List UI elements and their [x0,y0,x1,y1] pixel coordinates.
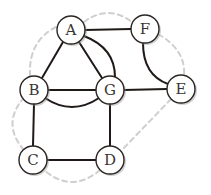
cycle-segment-d-c [44,170,100,182]
node-d: D [96,146,126,176]
edge-a-f [85,29,131,30]
node-f-label: F [140,20,150,38]
edge-b-g-curved [45,98,99,107]
cycle-segment-f-e [158,34,184,75]
edge-f-e [143,43,168,84]
node-f: F [131,15,161,45]
cycle-segment-b-a [30,26,58,76]
cycle-segment-a-f [84,13,132,22]
node-a-label: A [65,21,77,39]
node-b: B [20,76,50,106]
cycle-segment-c-b [12,100,24,150]
edge-a-b [42,42,63,78]
graph-diagram: A F B G E C D [0,0,211,195]
node-c: C [19,146,49,176]
edge-b-c [33,104,34,146]
node-e: E [167,75,197,105]
node-a: A [57,16,87,46]
edge-a-g-straight [79,42,102,78]
edge-g-e [124,89,167,90]
cycle-segment-e-d [122,99,171,150]
node-e-label: E [176,80,187,98]
node-b-label: B [28,81,39,99]
nodes: A F B G E C D [19,15,197,176]
node-g-label: G [104,81,116,99]
node-c-label: C [27,151,38,169]
node-d-label: D [104,151,116,169]
node-g: G [96,76,126,106]
